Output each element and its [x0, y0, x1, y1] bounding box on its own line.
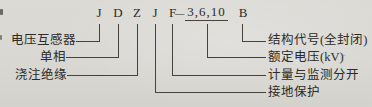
- scan-speck: [0, 35, 2, 40]
- code-voltage-values: 3,6,10: [185, 5, 228, 21]
- label-voltage-transformer: 电压互感器: [0, 34, 76, 47]
- scan-artifact-plus: +: [341, 52, 347, 59]
- scan-speck: [0, 9, 3, 15]
- model-designation-diagram: J D Z J F — 3,6,10 B 电压互感器 单相 浇注绝缘 结构代号(…: [0, 0, 372, 107]
- code-separator-dash: —: [175, 5, 183, 20]
- code-letter-4: J: [148, 5, 162, 20]
- code-letter-structure: B: [236, 5, 250, 20]
- label-cast-insulation: 浇注绝缘: [0, 69, 67, 82]
- label-rated-voltage: 额定电压(kV): [268, 51, 344, 64]
- code-letter-1: J: [92, 5, 106, 20]
- label-metering-monitoring-separate: 计量与监测分开: [268, 69, 359, 82]
- code-letter-2: D: [111, 5, 125, 20]
- label-ground-protection: 接地保护: [268, 86, 320, 99]
- code-letter-3: Z: [130, 5, 144, 20]
- label-structure-code: 结构代号(全封闭): [268, 34, 367, 47]
- label-single-phase: 单相: [0, 51, 66, 64]
